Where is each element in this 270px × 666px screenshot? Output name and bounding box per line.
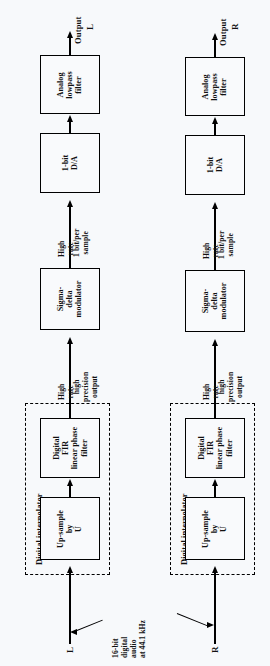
arrowhead-dac-to-lpf-left [67,115,73,122]
arrowhead-fir-to-sigma-right [212,339,218,346]
leader-arrowhead-right [207,622,214,628]
block-upsample-left: Up-sample by U [40,497,100,560]
connector-lpf-to-output-left [69,37,71,55]
arrowhead-upsample-to-fir-left [67,479,73,486]
arrowhead-input-right [212,566,218,573]
output-label-right: R [231,23,240,30]
annotation-1bit-per-sample-left: 1 bit/per sample [73,228,91,257]
block-analog-lowpass-filter-left: Analog lowpass filter [40,55,100,114]
arrowhead-dac-to-lpf-right [212,117,218,124]
block-label-upsample-right: Up-sample by U [201,510,229,548]
block-1bit-dac-right: 1-bit D/A [185,135,245,195]
block-label-dac-right: 1-bit D/A [206,157,224,173]
input-label-right: R [211,646,220,653]
block-label-fir-right: Digital FIR linear phase filter [197,427,234,469]
arrowhead-output-left [67,31,73,38]
connector-sigma-to-dac-right [214,208,216,270]
block-1bit-dac-left: 1-bit D/A [40,133,100,193]
annotation-high-precision-output-left: high precision output [73,372,100,402]
connector-input-right [214,572,216,644]
arrowhead-upsample-to-fir-right [212,479,218,486]
block-label-upsample-left: Up-sample by U [56,510,84,548]
block-digital-fir-filter-right: Digital FIR linear phase filter [185,418,245,478]
block-label-fir-left: Digital FIR linear phase filter [52,427,89,469]
block-upsample-right: Up-sample by U [185,497,245,560]
connector-sigma-to-dac-left [69,206,71,268]
output-label-left: L [86,24,95,30]
annotation-high-precision-output-right: high precision output [218,372,245,402]
block-label-analog-lpf-left: Analog lowpass filter [56,71,84,98]
arrowhead-fir-to-sigma-left [67,337,73,344]
block-label-sigma-delta-left: Sigma- delta modulator [56,281,84,318]
leader-arrowhead-left [70,629,77,635]
input-source-annotation: 16-bit digital audio at 44.1 kHz [112,620,148,658]
leader-line-right [177,613,208,626]
output-prefix-left: Output [74,17,83,44]
block-sigma-delta-modulator-left: Sigma- delta modulator [40,268,100,330]
diagram-canvas: Output L Analog lowpass filter 1-bit D/A… [0,0,270,666]
connector-lpf-to-output-right [214,39,216,57]
arrowhead-input-left [67,566,73,573]
block-analog-lowpass-filter-right: Analog lowpass filter [185,57,245,116]
input-label-left: L [66,647,75,653]
arrowhead-sigma-to-dac-right [212,202,218,209]
block-label-sigma-delta-right: Sigma- delta modulator [201,283,229,320]
block-label-dac-left: 1-bit D/A [61,155,79,171]
output-prefix-right: Output [219,19,228,46]
arrowhead-sigma-to-dac-left [67,200,73,207]
block-digital-fir-filter-left: Digital FIR linear phase filter [40,418,100,478]
arrowhead-output-right [212,33,218,40]
annotation-1bit-per-sample-right: 1 bit/per sample [218,230,236,259]
block-sigma-delta-modulator-right: Sigma- delta modulator [185,270,245,332]
block-label-analog-lpf-right: Analog lowpass filter [201,73,229,100]
